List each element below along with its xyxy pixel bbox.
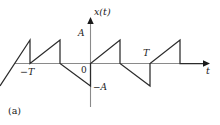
y-axis-arrowhead	[87, 17, 93, 24]
y-axis-label: x(t)	[94, 6, 111, 17]
amplitude-negative-label: −A	[93, 82, 108, 92]
x-axis-label: t	[206, 65, 210, 76]
waveform-plot: x(t) A −A 0 −T T t (a)	[0, 0, 220, 125]
amplitude-positive-label: A	[77, 28, 85, 38]
figure-container: x(t) A −A 0 −T T t (a)	[0, 0, 220, 125]
origin-label: 0	[81, 65, 87, 75]
period-positive-label: T	[143, 47, 150, 58]
panel-label: (a)	[8, 105, 21, 116]
period-negative-label: −T	[20, 66, 35, 77]
